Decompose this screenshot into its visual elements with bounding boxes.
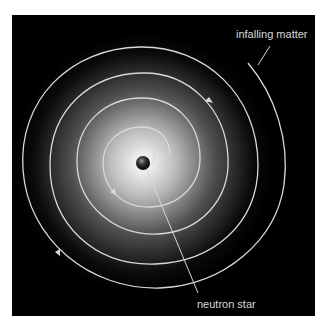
- neutron-star-label: neutron star: [197, 298, 256, 310]
- accretion-diagram: [0, 0, 320, 328]
- neutron-star: [136, 156, 150, 170]
- infalling-matter-label: infalling matter: [236, 28, 308, 40]
